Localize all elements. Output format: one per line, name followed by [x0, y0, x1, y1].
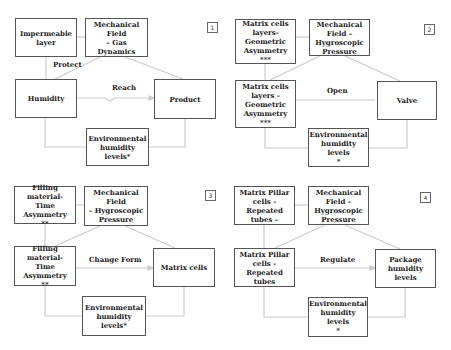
action-label: Open — [327, 86, 348, 95]
source-box: Matrix cells layers - Geometric Asymmetr… — [235, 80, 296, 128]
mechanical-field-box: Mechanical Field – Hygroscopic Pressure — [308, 186, 369, 225]
mechanical-field-box: Mechanical Field – Gas Dynamics — [85, 18, 148, 57]
environment-box: Environmental humidity levels* — [82, 296, 146, 336]
action-label: Regulate — [320, 255, 355, 264]
environment-box: Environmental humidity levels * — [308, 297, 368, 337]
source-box: Humidity — [15, 79, 77, 118]
environment-box: Environmental humidity levels* — [86, 128, 149, 166]
target-box: Valve — [377, 81, 437, 120]
target-box: Package humidity levels — [375, 249, 436, 288]
panel-number-badge: 3 — [205, 190, 216, 201]
target-box: Matrix cells — [153, 248, 215, 287]
action-label: Reach — [112, 83, 136, 92]
panel-number-badge: 2 — [424, 24, 435, 35]
source-box: Matrix Pillar cells - Repeated tubes — [234, 248, 295, 287]
top-left-box: Matrix cells layers- Geometric Asymmetry… — [235, 19, 296, 64]
source-box: Filling material- Time Asymmetry ** — [14, 246, 76, 286]
environment-box: Environmental humidity levels * — [308, 128, 369, 167]
panel-number-badge: 1 — [207, 22, 218, 33]
mechanical-field-box: Mechanical Field – Hygroscopic Pressure — [84, 186, 148, 226]
mechanical-field-box: Mechanical Field – Hygroscopic Pressure — [309, 19, 370, 56]
su-field-diagram: Impermeable layer Mechanical Field – Gas… — [0, 0, 451, 350]
protect-label: Protect — [53, 60, 82, 69]
top-left-box: Matrix Pillar cells - Repeated tubes – — [234, 186, 295, 225]
target-box: Product — [154, 79, 216, 119]
impermeable-layer-box: Impermeable layer — [15, 18, 77, 57]
top-left-box: Filling material- Time Asymmetry ** — [14, 186, 76, 224]
panel-number-badge: 4 — [420, 192, 431, 203]
action-label: Change Form — [89, 255, 141, 264]
